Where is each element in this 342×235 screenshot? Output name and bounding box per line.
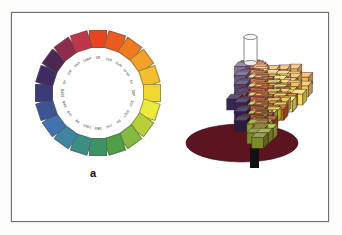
panel-b-color-solid: b xyxy=(172,19,324,189)
hue-circle: 5R10R5YR10YR5Y10Y5GY10GY5G10G5BG10BG5B10… xyxy=(28,23,168,163)
figure-container: 5R10R5YR10YR5Y10Y5GY10GY5G10G5BG10BG5B10… xyxy=(0,0,342,235)
munsell-color-solid-graphic xyxy=(172,19,324,169)
figure-plate: 5R10R5YR10YR5Y10Y5GY10GY5G10G5BG10BG5B10… xyxy=(11,12,329,222)
panel-a-hue-circle: 5R10R5YR10YR5Y10Y5GY10GY5G10G5BG10BG5B10… xyxy=(24,21,172,181)
panel-a-caption: a xyxy=(90,167,96,179)
